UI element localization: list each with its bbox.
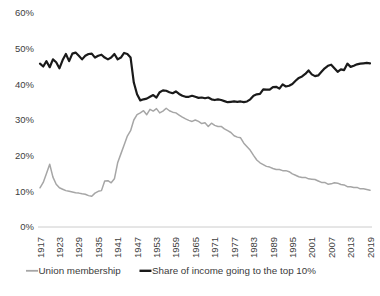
x-tick-label: 1989 bbox=[268, 237, 279, 258]
x-axis-tick-labels: 1917192319291935194119471953195919651971… bbox=[35, 237, 376, 258]
x-tick-label: 1983 bbox=[248, 237, 259, 258]
x-tick-label: 1935 bbox=[93, 237, 104, 258]
x-tick-label: 1947 bbox=[132, 237, 143, 258]
x-tick-label: 1995 bbox=[287, 237, 298, 258]
x-tick-label: 1929 bbox=[73, 237, 84, 258]
x-tick-label: 1917 bbox=[35, 237, 46, 258]
x-tick-label: 1959 bbox=[170, 237, 181, 258]
x-tick-label: 1941 bbox=[112, 237, 123, 258]
series-line-top10-income-share bbox=[40, 53, 370, 103]
series-line-union-membership bbox=[40, 108, 370, 196]
y-tick-label: 40% bbox=[15, 79, 35, 90]
series-lines bbox=[40, 53, 370, 197]
legend-label-union-membership: Union membership bbox=[39, 265, 122, 276]
y-tick-label: 30% bbox=[15, 114, 35, 125]
x-tick-label: 1965 bbox=[190, 237, 201, 258]
y-tick-label: 10% bbox=[15, 186, 35, 197]
y-tick-label: 60% bbox=[15, 7, 35, 18]
x-tick-label: 1977 bbox=[229, 237, 240, 258]
y-tick-label: 20% bbox=[15, 150, 35, 161]
y-tick-label: 0% bbox=[20, 221, 34, 232]
y-axis-tick-labels: 60%50%40%30%20%10%0% bbox=[15, 7, 35, 232]
x-tick-label: 2013 bbox=[345, 237, 356, 258]
x-tick-label: 2007 bbox=[326, 237, 337, 258]
x-tick-label: 2019 bbox=[365, 237, 376, 258]
y-tick-label: 50% bbox=[15, 43, 35, 54]
x-tick-label: 1923 bbox=[54, 237, 65, 258]
chart-legend: Union membershipShare of income going to… bbox=[26, 265, 316, 276]
x-tick-label: 1971 bbox=[209, 237, 220, 258]
line-chart: 60%50%40%30%20%10%0% 1917192319291935194… bbox=[0, 0, 380, 296]
x-tick-label: 2001 bbox=[306, 237, 317, 258]
legend-label-top10-income-share: Share of income going to the top 10% bbox=[152, 265, 316, 276]
x-tick-label: 1953 bbox=[151, 237, 162, 258]
chart-container: 60%50%40%30%20%10%0% 1917192319291935194… bbox=[0, 0, 380, 296]
